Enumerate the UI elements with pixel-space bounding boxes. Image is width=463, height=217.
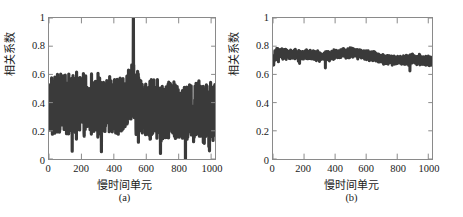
x-tick-label: 1000 — [192, 163, 232, 174]
y-tick-label: 0.8 — [239, 41, 269, 51]
panel-b-y-axis-label: 相关系数 — [225, 11, 241, 97]
panel-a-caption: (a) — [0, 192, 231, 203]
panel-b-plot-area — [272, 17, 433, 160]
x-tick-label: 1000 — [409, 163, 449, 174]
panel-b-caption: (b) — [231, 192, 462, 203]
y-tick-label: 0.4 — [239, 99, 269, 109]
panel-b-y-tick-labels: 1 0.8 0.6 0.4 0.2 0 — [238, 0, 269, 177]
panel-a-trace — [49, 18, 215, 159]
panel-a-y-tick-labels: 1 0.8 0.6 0.4 0.2 0 — [14, 0, 45, 177]
y-tick-label: 0.4 — [15, 99, 45, 109]
panel-b: 1 0.8 0.6 0.4 0.2 0 相关系数 0 200 400 600 8… — [231, 0, 462, 217]
panel-a: 1 0.8 0.6 0.4 0.2 0 相关系数 0 200 400 600 8… — [0, 0, 231, 217]
y-tick-label: 0.2 — [239, 127, 269, 137]
y-tick-label: 1 — [239, 13, 269, 23]
y-tick-label: 0.6 — [239, 70, 269, 80]
y-tick-label: 0.6 — [15, 70, 45, 80]
y-tick-label: 0.2 — [15, 127, 45, 137]
panel-a-plot-area — [48, 17, 216, 160]
y-tick-label: 1 — [15, 13, 45, 23]
panel-b-x-axis-label: 慢时间单元 — [231, 176, 462, 192]
figure-root: 1 0.8 0.6 0.4 0.2 0 相关系数 0 200 400 600 8… — [0, 0, 463, 217]
panel-b-trace — [273, 18, 432, 159]
panel-a-y-axis-label: 相关系数 — [1, 11, 17, 97]
y-tick-label: 0.8 — [15, 41, 45, 51]
panel-a-x-axis-label: 慢时间单元 — [0, 176, 231, 192]
